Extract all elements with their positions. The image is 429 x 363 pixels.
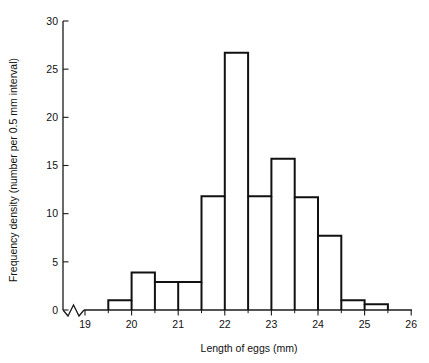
y-tick-label: 0	[52, 304, 58, 316]
chart-canvas: 051015202530 1920212223242526 Length of …	[0, 0, 429, 363]
x-tick-label: 21	[172, 318, 184, 330]
y-tick-label: 5	[52, 256, 58, 268]
histogram-chart: 051015202530 1920212223242526 Length of …	[0, 0, 429, 363]
y-tick-label: 15	[46, 159, 58, 171]
y-tick-label: 20	[46, 111, 58, 123]
y-axis: 051015202530	[46, 15, 68, 316]
x-axis-label: Length of eggs (mm)	[201, 342, 298, 354]
x-tick-label: 20	[126, 318, 138, 330]
x-tick-label: 19	[79, 318, 91, 330]
x-tick-label: 26	[405, 318, 417, 330]
x-tick-label: 23	[266, 318, 278, 330]
histogram-bars	[108, 53, 388, 310]
y-axis-label: Frequency density (number per 0.5 mm int…	[7, 58, 19, 282]
y-tick-label: 30	[46, 15, 58, 27]
x-tick-label: 24	[312, 318, 324, 330]
x-tick-label: 25	[359, 318, 371, 330]
y-tick-label: 10	[46, 207, 58, 219]
x-tick-label: 22	[219, 318, 231, 330]
y-tick-label: 25	[46, 63, 58, 75]
